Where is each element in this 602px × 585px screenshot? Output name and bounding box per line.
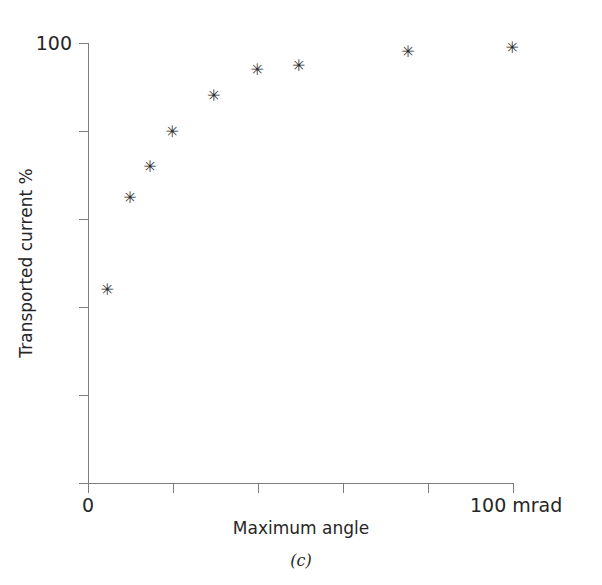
x-axis-tick-40 xyxy=(258,484,259,493)
data-point: ✳ xyxy=(143,159,158,174)
data-point: ✳ xyxy=(505,40,520,55)
x-axis-tick-0 xyxy=(88,484,89,493)
data-point: ✳ xyxy=(401,44,416,59)
y-axis-tick-100 xyxy=(79,43,88,44)
x-axis-tick-80 xyxy=(428,484,429,493)
y-axis-title: Transported current % xyxy=(16,133,36,393)
data-point: ✳ xyxy=(291,58,306,73)
data-point: ✳ xyxy=(123,190,138,205)
y-axis-tick-60 xyxy=(79,219,88,220)
data-point: ✳ xyxy=(100,282,115,297)
data-point: ✳ xyxy=(165,124,180,139)
x-axis-zero-label: 0 xyxy=(82,494,94,516)
y-axis-top-tick-label: 100 xyxy=(36,32,72,54)
x-axis-tick-60 xyxy=(343,484,344,493)
x-axis-tick-20 xyxy=(173,484,174,493)
x-axis-max-label: 100 mrad xyxy=(470,494,562,516)
y-axis-tick-0 xyxy=(79,483,88,484)
panel-caption: (c) xyxy=(0,551,602,570)
x-axis-title: Maximum angle xyxy=(0,518,602,538)
data-point: ✳ xyxy=(206,88,221,103)
y-axis-tick-20 xyxy=(79,395,88,396)
y-axis-tick-40 xyxy=(79,307,88,308)
data-point: ✳ xyxy=(250,62,265,77)
y-axis-tick-80 xyxy=(79,131,88,132)
x-axis-tick-100 xyxy=(513,484,514,493)
plot-area: ✳✳✳✳✳✳✳✳✳ xyxy=(88,43,513,483)
figure-panel-c: ✳✳✳✳✳✳✳✳✳ 100 0 100 mrad Maximum angle T… xyxy=(0,0,602,585)
x-axis-line xyxy=(88,483,514,484)
